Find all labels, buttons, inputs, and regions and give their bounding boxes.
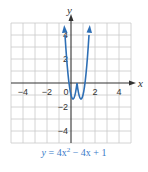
x-tick-label: −2 (42, 87, 52, 97)
x-tick-label: 2 (92, 87, 97, 97)
curve-right-arrow-icon (87, 25, 93, 33)
parabola-curve (65, 35, 89, 99)
y-tick-label: −4 (58, 126, 68, 136)
equation-caption: y = 4x2 − 4x + 1 (0, 146, 148, 158)
x-tick-label: −4 (18, 87, 28, 97)
y-tick-label: −2 (58, 102, 68, 112)
x-axis-label: x (137, 77, 143, 89)
x-tick-label: 4 (116, 87, 121, 97)
axes (11, 18, 132, 143)
x-tick-label: 0 (63, 87, 68, 97)
equation-rest: − 4x + 1 (70, 147, 106, 158)
x-axis-arrow-icon (129, 81, 136, 86)
y-axis-label: y (66, 4, 72, 16)
equation-body: = 4x (46, 147, 67, 158)
curve-left-arrow-icon (62, 25, 68, 33)
